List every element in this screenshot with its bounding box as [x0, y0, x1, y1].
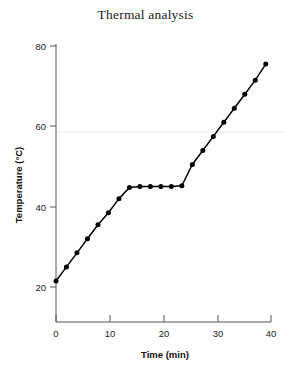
data-point	[253, 78, 258, 83]
x-tick-label-20: 20	[159, 328, 170, 339]
y-tick-label-20: 20	[35, 282, 46, 293]
data-point	[64, 264, 69, 269]
data-point	[95, 222, 100, 227]
y-tick-label-60: 60	[35, 121, 46, 132]
chart-page: Thermal analysis 80 60 40 20 0 10 2	[0, 0, 291, 375]
heating-curve-points	[54, 62, 269, 284]
data-point	[221, 120, 226, 125]
x-tick-label-0: 0	[53, 328, 58, 339]
y-axis-title: Temperature (°C)	[13, 147, 24, 223]
data-point	[106, 210, 111, 215]
x-axis-tick-labels: 0 10 20 30 40	[53, 328, 276, 339]
x-axis-title: Time (min)	[141, 349, 189, 360]
data-point	[211, 134, 216, 139]
data-point	[179, 183, 184, 188]
data-point	[54, 278, 59, 283]
thermal-analysis-line-chart: 80 60 40 20 0 10 20 30 40 Time (min) Tem…	[0, 0, 291, 375]
y-tick-label-80: 80	[35, 41, 46, 52]
data-point	[200, 148, 205, 153]
data-point	[127, 185, 132, 190]
x-tick-label-10: 10	[105, 328, 116, 339]
y-axis-tick-labels: 80 60 40 20	[35, 41, 46, 293]
data-point	[116, 196, 121, 201]
y-tick-label-40: 40	[35, 202, 46, 213]
data-point	[232, 106, 237, 111]
x-tick-label-30: 30	[213, 328, 224, 339]
data-point	[190, 162, 195, 167]
x-axis-ticks	[56, 315, 271, 322]
data-point	[169, 184, 174, 189]
data-point	[74, 250, 79, 255]
data-point	[148, 184, 153, 189]
y-axis-ticks	[50, 46, 56, 287]
heating-curve-line	[56, 64, 266, 281]
x-tick-label-40: 40	[266, 328, 277, 339]
data-point	[263, 62, 268, 67]
data-point	[137, 184, 142, 189]
data-point	[158, 184, 163, 189]
data-point	[85, 236, 90, 241]
data-point	[242, 92, 247, 97]
